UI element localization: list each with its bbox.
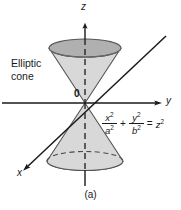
term2-denominator: b2 [130, 124, 143, 136]
surface-equation: x2 a2 + y2 b2 = z2 [101, 111, 164, 136]
elliptic-cone-figure: Elliptic cone z y x 0 x2 a2 + y2 b2 = z2… [0, 0, 181, 210]
origin-label: 0 [74, 89, 80, 100]
axis-label-y: y [166, 96, 171, 107]
figure-caption: (a) [0, 190, 181, 201]
term1-numerator-exponent: 2 [110, 111, 114, 118]
term2-numerator: y2 [130, 111, 142, 123]
term1-denominator: a2 [103, 124, 116, 136]
term2-numerator-exponent: 2 [137, 111, 141, 118]
equation-equals-sign: = [147, 118, 153, 129]
rhs-exponent: 2 [160, 118, 164, 125]
surface-name-label: Elliptic cone [11, 57, 41, 82]
axis-label-z: z [81, 2, 86, 13]
equation-right-hand-side: z2 [156, 118, 164, 130]
equation-operator-plus: + [120, 118, 126, 129]
term1-denominator-exponent: 2 [110, 124, 114, 131]
equation-term-2: y2 b2 [129, 111, 144, 136]
axis-label-x: x [17, 168, 22, 179]
term2-denominator-exponent: 2 [137, 124, 141, 131]
cone-diagram-canvas [0, 0, 181, 210]
equation-term-1: x2 a2 [102, 111, 117, 136]
term1-numerator: x2 [103, 111, 115, 123]
